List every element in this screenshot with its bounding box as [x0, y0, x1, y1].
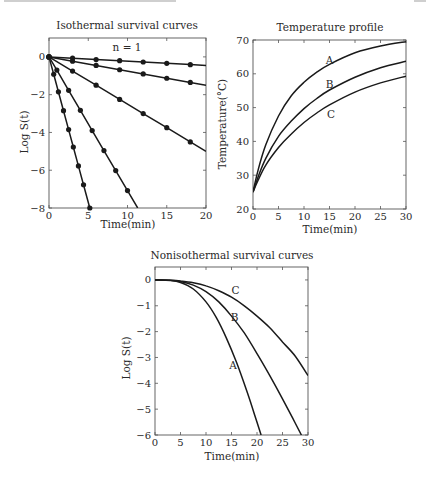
- data-point-marker: [117, 58, 122, 63]
- data-point-marker: [188, 80, 193, 85]
- y-tick-label: 50: [236, 102, 249, 113]
- data-point-marker: [71, 144, 76, 149]
- curve-label-A: A: [325, 54, 334, 66]
- data-point-marker: [117, 97, 122, 102]
- series-line-A: [155, 280, 261, 435]
- data-point-marker: [141, 71, 146, 76]
- data-point-marker: [90, 128, 95, 133]
- data-point-marker: [94, 83, 99, 88]
- data-point-marker: [51, 72, 56, 77]
- y-tick-label: −2: [30, 89, 45, 100]
- figure-canvas: Isothermal survival curves n = 1 Time(mi…: [0, 0, 428, 480]
- y-tick-label: −6: [30, 165, 45, 176]
- y-tick-label: 0: [145, 274, 151, 285]
- y-tick-label: −4: [136, 378, 151, 389]
- data-point-marker: [94, 63, 99, 68]
- x-tick-label: 5: [177, 437, 183, 448]
- x-tick-label: 25: [276, 437, 289, 448]
- y-tick-label: 30: [236, 170, 249, 181]
- data-point-marker: [125, 188, 130, 193]
- curve-label-C: C: [232, 284, 240, 296]
- y-tick-label: −1: [136, 300, 151, 311]
- y-tick-label: −6: [136, 430, 151, 441]
- y-tick-label: −5: [136, 404, 151, 415]
- y-tick-label: −2: [136, 326, 151, 337]
- x-tick-label: 10: [200, 437, 213, 448]
- data-point-marker: [141, 59, 146, 64]
- data-point-marker: [66, 127, 71, 132]
- nonisothermal-x-axis-label: Time(min): [205, 450, 260, 462]
- isothermal-chart-title: Isothermal survival curves: [56, 19, 198, 31]
- data-point-marker: [164, 76, 169, 81]
- x-tick-label: 0: [46, 210, 52, 221]
- data-point-marker: [76, 163, 81, 168]
- y-tick-label: 40: [236, 136, 249, 147]
- x-tick-label: 5: [85, 210, 91, 221]
- data-point-marker: [70, 59, 75, 64]
- data-point-marker: [56, 89, 61, 94]
- y-tick-label: 20: [236, 204, 249, 215]
- curve-label-B: B: [326, 78, 334, 90]
- data-point-marker: [54, 68, 59, 73]
- temperature-chart-title: Temperature profile: [277, 21, 384, 33]
- temperature-y-axis-label: Temperature(°C): [216, 79, 228, 169]
- nonisothermal-y-axis-label: Log S(t): [120, 337, 132, 380]
- x-tick-label: 30: [400, 211, 413, 222]
- y-tick-label: −8: [30, 203, 45, 214]
- series-line-C: [253, 76, 406, 192]
- x-tick-label: 30: [302, 437, 315, 448]
- data-point-marker: [87, 205, 92, 210]
- x-tick-label: 10: [121, 210, 134, 221]
- data-point-marker: [188, 139, 193, 144]
- data-point-marker: [141, 111, 146, 116]
- data-point-marker: [70, 68, 75, 73]
- temperature-x-axis-label: Time(min): [303, 223, 358, 235]
- curve-label-C: C: [327, 108, 335, 120]
- series-line-B: [155, 280, 301, 435]
- nonisothermal-chart: Nonisothermal survival curves Time(min) …: [120, 249, 314, 462]
- data-point-marker: [94, 57, 99, 62]
- data-point-marker: [164, 125, 169, 130]
- isothermal-chart: Isothermal survival curves n = 1 Time(mi…: [18, 19, 212, 230]
- x-tick-label: 25: [374, 211, 387, 222]
- curve-label-B: B: [231, 311, 239, 323]
- x-tick-label: 0: [152, 437, 158, 448]
- nonisothermal-chart-title: Nonisothermal survival curves: [150, 249, 313, 261]
- y-tick-label: 70: [236, 35, 249, 46]
- x-tick-label: 0: [250, 211, 256, 222]
- data-point-marker: [78, 108, 83, 113]
- y-tick-label: −3: [136, 352, 151, 363]
- data-point-marker: [188, 62, 193, 67]
- x-tick-label: 15: [323, 211, 336, 222]
- data-point-marker: [164, 61, 169, 66]
- y-tick-label: 60: [236, 68, 249, 79]
- data-point-marker: [117, 67, 122, 72]
- x-tick-label: 15: [225, 437, 238, 448]
- data-point-marker: [101, 148, 106, 153]
- x-tick-label: 20: [349, 211, 362, 222]
- temperature-profile-chart: Temperature profile Time(min) Temperatur…: [216, 21, 412, 235]
- data-point-marker: [46, 54, 51, 59]
- x-tick-label: 5: [275, 211, 281, 222]
- x-tick-label: 10: [298, 211, 311, 222]
- isothermal-n-annotation: n = 1: [113, 41, 142, 53]
- isothermal-y-axis-label: Log S(t): [18, 111, 30, 154]
- data-point-marker: [66, 88, 71, 93]
- data-point-marker: [61, 108, 66, 113]
- data-point-marker: [81, 182, 86, 187]
- x-tick-label: 20: [251, 437, 264, 448]
- x-tick-label: 15: [160, 210, 173, 221]
- data-point-marker: [113, 168, 118, 173]
- curve-label-A: A: [228, 359, 237, 371]
- y-tick-label: −4: [30, 127, 45, 138]
- x-tick-label: 20: [200, 210, 213, 221]
- y-tick-label: 0: [39, 51, 45, 62]
